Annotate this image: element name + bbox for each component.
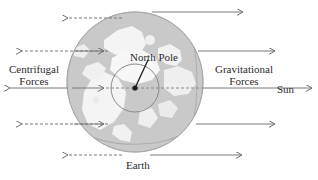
sun-label: Sun <box>277 84 294 96</box>
gravitational-forces-label-line1: Gravitational <box>215 63 273 75</box>
north-pole-layer <box>0 0 318 180</box>
centrifugal-forces-label-line2: Forces <box>2 76 66 88</box>
centrifugal-forces-label-line1: Centrifugal <box>9 63 59 75</box>
gravitational-forces-label-line2: Forces <box>208 76 280 88</box>
centrifugal-forces-label: Centrifugal Forces <box>2 64 66 87</box>
gravitational-forces-label: Gravitational Forces <box>208 64 280 87</box>
north-pole-label: North Pole <box>130 52 178 64</box>
earth-label: Earth <box>126 160 150 172</box>
tidal-force-diagram: Centrifugal Forces Gravitational Forces … <box>0 0 318 180</box>
north-pole-dot <box>132 85 137 90</box>
